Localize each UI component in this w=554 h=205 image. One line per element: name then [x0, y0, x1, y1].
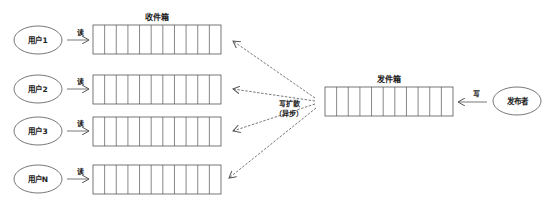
inbox-queue	[93, 117, 221, 146]
queue-frame	[93, 75, 221, 104]
read-label: 读	[77, 167, 84, 176]
user-row-3: 用户3 读	[14, 117, 221, 146]
inbox-queue	[93, 25, 221, 54]
user-label: 用户3	[28, 126, 47, 136]
queue-frame	[93, 25, 221, 54]
outbox-title: 发件箱	[376, 74, 401, 84]
inbox-queue	[93, 75, 221, 104]
read-label: 读	[77, 28, 84, 37]
queue-frame	[325, 87, 453, 116]
queue-frame	[93, 117, 221, 146]
user-label: 用户2	[28, 84, 47, 94]
user-row-2: 用户2 读	[14, 75, 221, 104]
fanout-diagram: 收件箱 用户1 读 用户2 读 用户3 读 用户N 读 写扩散	[0, 0, 554, 205]
fanout-async-label: （异步）	[275, 109, 303, 118]
publisher-label: 发布者	[506, 96, 529, 106]
user-row-1: 用户1 读	[14, 25, 221, 54]
user-label: 用户N	[28, 174, 48, 184]
read-label: 读	[77, 77, 84, 86]
user-row-n: 用户N 读	[14, 165, 221, 194]
outbox-queue	[325, 87, 453, 116]
read-label: 读	[77, 119, 84, 128]
fanout-label: 写扩散	[279, 99, 300, 108]
inbox-title: 收件箱	[145, 12, 169, 22]
fanout-arrow-icon	[233, 89, 315, 101]
user-label: 用户1	[28, 35, 47, 45]
fanout-arrow-icon	[229, 108, 316, 178]
write-label: 写	[473, 90, 480, 98]
fanout-arrow-icon	[233, 41, 315, 98]
inbox-queue	[93, 165, 221, 194]
queue-frame	[93, 165, 221, 194]
